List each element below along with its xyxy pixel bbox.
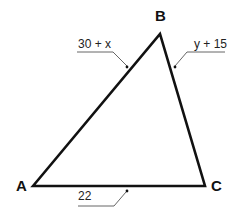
edge-label-ab: 30 + x: [77, 37, 128, 68]
leader-line-bc: [175, 52, 225, 66]
vertex-label-a: A: [16, 177, 27, 194]
svg-text:22: 22: [78, 189, 92, 203]
leader-dot-ac: [126, 190, 129, 193]
leader-line-ab: [77, 52, 127, 66]
vertex-label-c: C: [211, 177, 222, 194]
leader-dot-ab: [126, 66, 129, 69]
triangle-abc: [33, 34, 205, 186]
svg-text:30 + x: 30 + x: [78, 37, 111, 51]
svg-text:y + 15: y + 15: [194, 37, 227, 51]
edge-label-bc: y + 15: [174, 37, 228, 68]
vertex-label-b: B: [155, 7, 166, 24]
leader-dot-bc: [174, 66, 177, 69]
edge-label-ac: 22: [78, 189, 128, 206]
triangle-diagram: A B C 30 + x y + 15 22: [0, 0, 235, 215]
